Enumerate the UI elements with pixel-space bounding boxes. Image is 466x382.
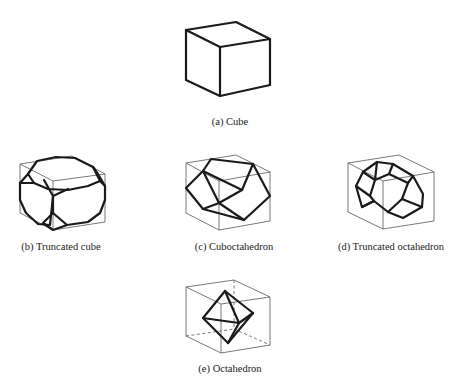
caption-cube: (a) Cube	[212, 116, 248, 127]
caption-cuboctahedron: (c) Cuboctahedron	[195, 241, 273, 252]
polyhedra-figure	[0, 0, 466, 382]
cuboctahedron-drawing	[186, 155, 270, 230]
caption-truncated-octahedron: (d) Truncated octahedron	[338, 241, 444, 252]
caption-octahedron: (e) Octahedron	[198, 363, 261, 374]
truncated-cube-drawing	[20, 156, 105, 230]
cube-drawing	[186, 22, 270, 96]
octahedron-drawing	[186, 280, 270, 353]
caption-truncated-cube: (b) Truncated cube	[21, 241, 100, 252]
truncated-octahedron-drawing	[348, 155, 434, 229]
